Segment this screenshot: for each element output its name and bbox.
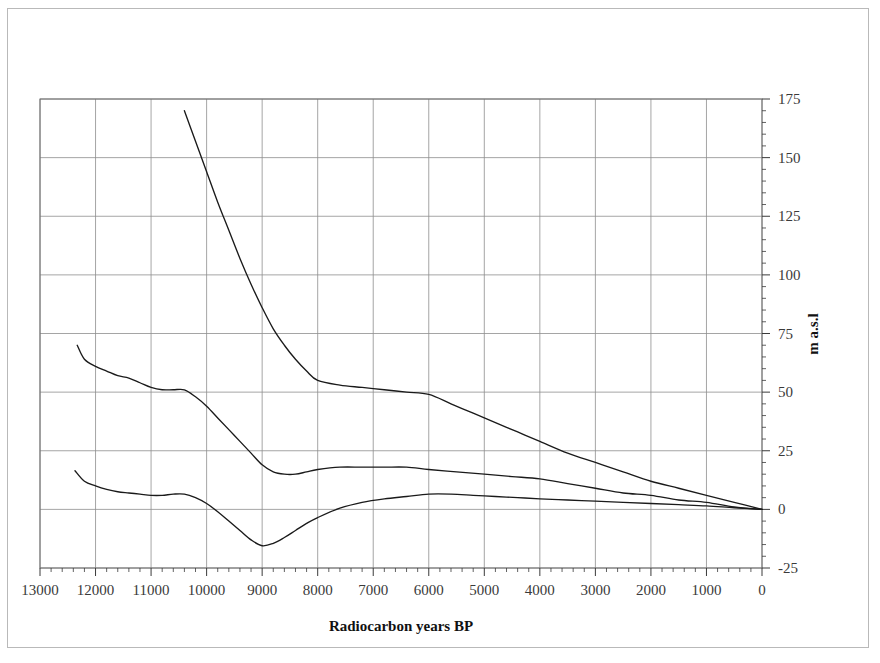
x-tick-label: 2000 [636,582,666,598]
y-tick-label: 125 [778,208,801,224]
x-tick-label: 13000 [21,582,59,598]
y-tick-label: 50 [778,384,793,400]
x-axis-title: Radiocarbon years BP [329,618,473,634]
x-tick-label: 9000 [247,582,277,598]
x-tick-label: 7000 [358,582,388,598]
x-axis-tick-labels: 1300012000110001000090008000700060005000… [21,582,766,598]
y-axis-title: m a.s.l [805,313,821,354]
y-tick-label: 75 [778,326,793,342]
series-line-lower-curve [75,471,762,546]
x-tick-label: 8000 [303,582,333,598]
series-line-middle-curve [77,345,762,509]
x-tick-label: 10000 [188,582,226,598]
x-tick-label: 11000 [133,582,170,598]
x-tick-label: 3000 [580,582,610,598]
chart-canvas: 1300012000110001000090008000700060005000… [0,0,880,663]
data-series [75,111,762,546]
y-tick-label: 175 [778,91,801,107]
y-tick-label: 0 [778,501,786,517]
y-tick-label: 25 [778,443,793,459]
y-axis-tick-labels: 1751501251007550250-25 [778,91,801,576]
x-tick-label: 5000 [469,582,499,598]
series-line-upper-curve [184,111,762,510]
x-tick-label: 0 [758,582,766,598]
x-tick-label: 12000 [77,582,115,598]
x-tick-label: 6000 [414,582,444,598]
x-tick-label: 4000 [525,582,555,598]
x-tick-label: 1000 [691,582,721,598]
y-tick-label: 150 [778,150,801,166]
y-tick-label: 100 [778,267,801,283]
chart-page: 1300012000110001000090008000700060005000… [0,0,880,663]
y-tick-label: -25 [778,560,798,576]
